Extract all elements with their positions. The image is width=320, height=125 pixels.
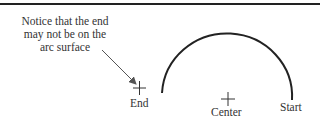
- end-label: End: [130, 97, 149, 109]
- arc: [162, 33, 292, 100]
- center-point-cross-icon: [221, 92, 235, 106]
- arc-diagram: [0, 0, 320, 125]
- leader-arrow: [102, 50, 136, 84]
- start-label: Start: [280, 101, 302, 113]
- center-label: Center: [211, 106, 242, 118]
